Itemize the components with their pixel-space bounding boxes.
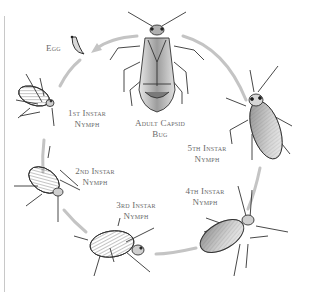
label-second-instar-line1: 2nd Instar bbox=[72, 166, 118, 177]
egg-icon bbox=[71, 36, 84, 54]
arrow-4th-to-5th bbox=[248, 168, 260, 209]
label-first-instar-line2: Nymph bbox=[64, 119, 110, 130]
label-fourth-instar: 4th Instar Nymph bbox=[182, 186, 228, 208]
life-cycle-diagram: Egg 1st Instar Nymph Adult Capsid Bug 5t… bbox=[0, 0, 313, 293]
label-first-instar: 1st Instar Nymph bbox=[64, 108, 110, 130]
label-fifth-instar-line2: Nymph bbox=[184, 154, 230, 165]
label-third-instar-line2: Nymph bbox=[113, 211, 159, 222]
label-fifth-instar: 5th Instar Nymph bbox=[184, 143, 230, 165]
label-adult-line2: Bug bbox=[130, 129, 190, 140]
label-second-instar-line2: Nymph bbox=[72, 177, 118, 188]
arrow-3rd-to-4th bbox=[156, 248, 196, 254]
second-instar-nymph-icon bbox=[14, 146, 80, 222]
label-second-instar: 2nd Instar Nymph bbox=[72, 166, 118, 188]
label-egg-text: Egg bbox=[46, 43, 61, 53]
arrow-2nd-to-3rd bbox=[64, 210, 86, 232]
third-instar-nymph-icon bbox=[74, 218, 154, 276]
label-first-instar-line1: 1st Instar bbox=[64, 108, 110, 119]
label-adult: Adult Capsid Bug bbox=[130, 118, 190, 140]
label-fifth-instar-line1: 5th Instar bbox=[184, 143, 230, 154]
label-adult-line1: Adult Capsid bbox=[130, 118, 190, 129]
label-third-instar: 3rd Instar Nymph bbox=[113, 200, 159, 222]
arrow-5th-to-adult bbox=[183, 36, 246, 100]
label-third-instar-line1: 3rd Instar bbox=[113, 200, 159, 211]
label-fourth-instar-line2: Nymph bbox=[182, 197, 228, 208]
first-instar-nymph-icon bbox=[16, 74, 54, 126]
arrow-egg-to-1st bbox=[60, 60, 80, 86]
label-fourth-instar-line1: 4th Instar bbox=[182, 186, 228, 197]
label-egg: Egg bbox=[46, 43, 61, 54]
adult-capsid-bug-icon bbox=[110, 12, 204, 112]
